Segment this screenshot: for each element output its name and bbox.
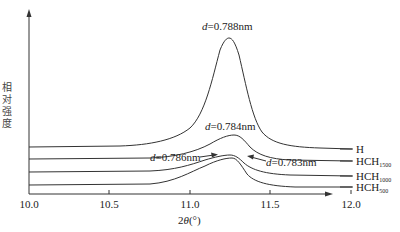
y-label-char: 强 [2,106,16,118]
y-axis-label: 相 对 强 度 [2,82,16,130]
legend-h: H [356,143,364,155]
x-tick-label: 10.0 [19,198,38,210]
legend-sub: 1500 [379,162,391,168]
x-ticks [109,190,351,194]
y-label-char: 相 [2,82,16,94]
legend-hch500: HCH500 [356,181,388,197]
x-axis-arrow-icon [325,192,333,197]
annotation-d-0784: d=0.784nm [205,120,256,132]
x-tick-label: 10.5 [99,198,118,210]
arrow-783-icon [247,155,254,160]
annot-value: =0.784nm [211,120,256,132]
y-label-char: 对 [2,94,16,106]
y-label-char: 度 [2,118,16,130]
x-axis-label: 2θ(°) [178,214,201,226]
x-tick-label: 12.0 [341,198,360,210]
legend-leaders [340,149,353,187]
x-tick-label: 11.5 [261,198,280,210]
legend-hch1500: HCH1500 [356,155,391,171]
annot-value: =0.786nm [156,151,201,163]
annot-value: =0.783nm [272,156,317,168]
annot-value: =0.788nm [208,20,253,32]
annotation-d-0786: d=0.786nm [150,151,201,163]
legend-main: HCH [356,155,379,167]
y-axis-arrow-icon [27,9,32,17]
x-tick-label: 11.0 [181,198,200,210]
legend-h-label: H [356,143,364,155]
x-label-suffix: (°) [189,214,201,226]
legend-sub: 500 [379,188,388,194]
xrd-plot [0,0,400,232]
series-h-curve [29,38,352,149]
annotation-d-0783: d=0.783nm [266,156,317,168]
annotation-d-0788: d=0.788nm [202,20,253,32]
legend-main: HCH [356,181,379,193]
